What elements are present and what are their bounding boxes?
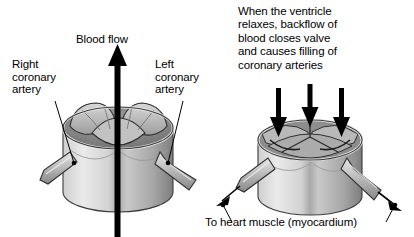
label-right-coronary-artery: Right coronary artery	[12, 58, 56, 96]
leader-dot-myocardium-right	[393, 203, 398, 208]
caption-diastole: When the ventricle relaxes, backflow of …	[238, 5, 337, 72]
leader-dot-right-coronary	[72, 161, 77, 166]
leader-dot-left-coronary	[166, 161, 171, 166]
label-to-heart-muscle: To heart muscle (myocardium)	[205, 216, 357, 229]
valve-closed-diastole-figure	[216, 84, 402, 222]
blood-flow-arrow-shaft	[115, 58, 121, 237]
label-left-coronary-artery: Left coronary artery	[155, 58, 199, 96]
blood-flow-arrow-head	[108, 44, 127, 66]
label-blood-flow: Blood flow	[76, 33, 128, 46]
leader-dot-myocardium-left	[221, 203, 226, 208]
diagram-canvas: Blood flow Right coronary artery Left co…	[0, 0, 414, 237]
diagram-artwork	[0, 0, 414, 237]
outflow-arrow-shaft-left	[222, 186, 240, 201]
